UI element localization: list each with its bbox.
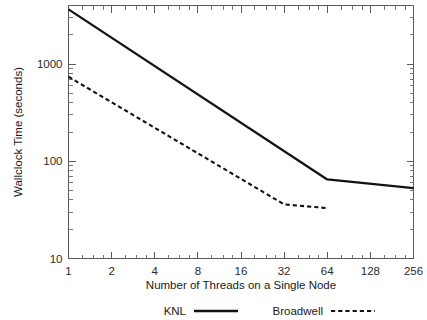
x-tick-label: 4 bbox=[152, 265, 159, 277]
y-tick-label: 10 bbox=[50, 253, 63, 265]
y-tick-label: 1000 bbox=[37, 58, 63, 70]
chart-figure: 1248163264128256 101001000 Number of Thr… bbox=[0, 0, 427, 320]
x-tick-label: 1 bbox=[65, 265, 71, 277]
x-tick-label: 16 bbox=[235, 265, 248, 277]
chart-svg: 1248163264128256 101001000 Number of Thr… bbox=[0, 0, 427, 320]
x-axis-title: Number of Threads on a Single Node bbox=[146, 279, 336, 291]
x-tick-label: 128 bbox=[361, 265, 380, 277]
x-tick-label: 2 bbox=[108, 265, 114, 277]
legend-label-broadwell: Broadwell bbox=[273, 305, 324, 317]
x-tick-label: 64 bbox=[321, 265, 334, 277]
y-tick-label: 100 bbox=[43, 155, 62, 167]
x-tick-label: 32 bbox=[278, 265, 291, 277]
x-tick-label: 8 bbox=[195, 265, 201, 277]
legend-label-knl: KNL bbox=[164, 305, 187, 317]
x-tick-label: 256 bbox=[404, 265, 423, 277]
y-axis-title: Wallclock Time (seconds) bbox=[12, 67, 24, 197]
